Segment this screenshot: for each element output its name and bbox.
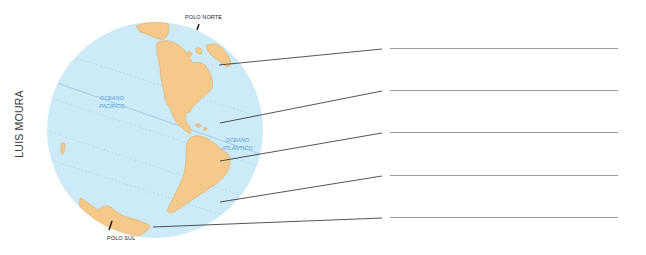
north-pole-marker xyxy=(197,24,199,30)
answer-line-4[interactable] xyxy=(390,175,618,176)
arctic-island xyxy=(187,52,192,56)
answer-line-3[interactable] xyxy=(390,132,618,133)
south-pole-label: POLO SUL xyxy=(107,235,135,241)
globe-ocean xyxy=(47,22,263,238)
pacific-ocean-label: OCEANO PACÍFICO xyxy=(99,94,125,110)
answer-line-2[interactable] xyxy=(390,90,618,91)
caribbean-island xyxy=(204,128,207,131)
caribbean-island xyxy=(196,124,201,128)
photo-credit: LUIS MOURA xyxy=(13,90,25,157)
north-pole-label: POLO NORTE xyxy=(185,14,222,20)
globe-exercise: LUIS MOURA POLO NORTE POLO SUL OCEANO PA… xyxy=(0,0,646,255)
answer-line-5[interactable] xyxy=(390,217,618,218)
atlantic-ocean-label: OCEANO ATLÂNTICO xyxy=(222,136,252,152)
answer-line-1[interactable] xyxy=(390,48,618,49)
leader-line-1 xyxy=(219,49,382,65)
